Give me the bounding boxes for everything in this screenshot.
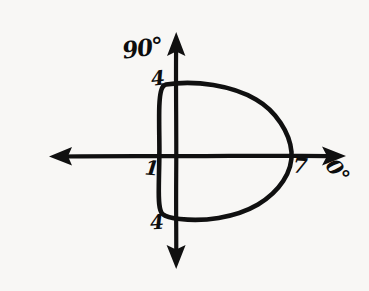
tick-label-right: 7	[292, 155, 308, 177]
axis-label-90-degrees: 90°	[121, 33, 164, 61]
tick-label-top: 4	[150, 67, 166, 88]
polar-plot-drawing	[0, 0, 369, 291]
sketch-canvas: 90° 0° 4 4 1 7	[0, 0, 369, 291]
tick-label-bottom: 4	[149, 212, 164, 233]
tick-label-left: 1	[144, 157, 160, 178]
polar-pattern-curve	[159, 83, 292, 220]
